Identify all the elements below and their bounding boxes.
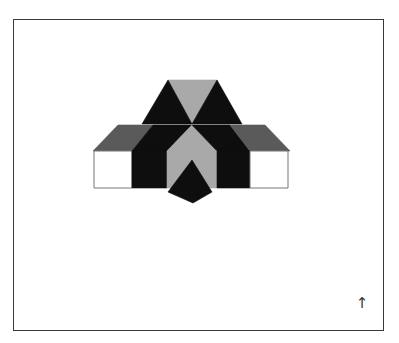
right-white-wall (250, 151, 288, 188)
north-arrow-icon: ↑ (355, 293, 369, 313)
shapes-layer (93, 80, 290, 203)
left-black-wall (132, 151, 167, 188)
house-block-diagram (0, 0, 399, 343)
right-black-wall (217, 151, 250, 188)
left-white-wall (94, 151, 132, 188)
